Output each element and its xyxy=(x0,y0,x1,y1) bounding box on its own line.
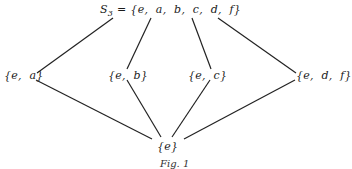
edge-top-edf xyxy=(218,18,296,73)
edge-top-eb xyxy=(127,18,151,69)
node-ea: {e, a} xyxy=(4,69,44,82)
s3-elements: = {e, a, b, c, d, f} xyxy=(113,3,241,16)
node-s3: S3 = {e, a, b, c, d, f} xyxy=(100,3,241,18)
node-ec: {e, c} xyxy=(188,69,227,82)
node-edf: {e, d, f} xyxy=(296,69,352,82)
s3-symbol: S xyxy=(100,3,108,16)
edge-top-ea xyxy=(37,18,113,73)
figure-caption: Fig. 1 xyxy=(160,158,189,169)
edge-top-ec xyxy=(192,18,211,69)
edge-edf-e xyxy=(184,80,295,139)
edge-ea-e xyxy=(36,80,152,139)
node-eb: {e, b} xyxy=(108,69,148,82)
node-e: {e} xyxy=(157,140,178,153)
